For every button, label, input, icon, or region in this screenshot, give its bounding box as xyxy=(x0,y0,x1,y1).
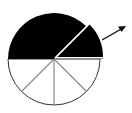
unshaded-half xyxy=(8,59,100,105)
fraction-circle-diagram xyxy=(0,0,132,113)
arrow-icon xyxy=(102,26,126,40)
